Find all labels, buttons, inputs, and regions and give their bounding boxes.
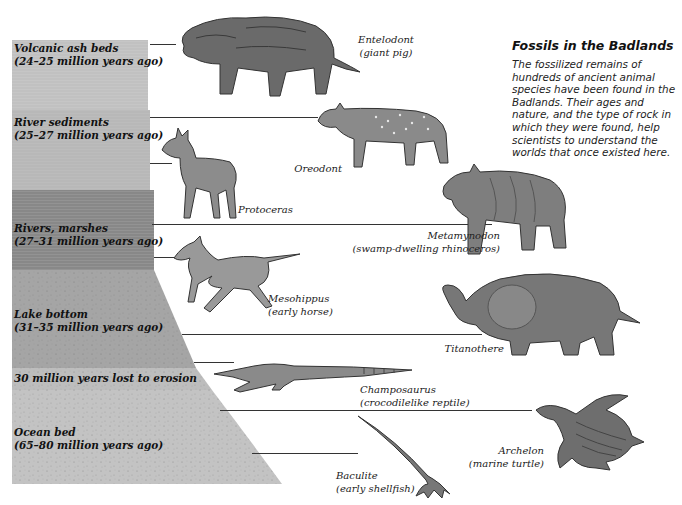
stratum-label-erosion: 30 million years lost to erosion (14, 372, 197, 385)
animal-desc: (crocodilelike reptile) (360, 397, 480, 410)
label-oreodont: Oreodont (290, 163, 342, 176)
leader-line-archelon (220, 410, 532, 411)
leader-line-baculite (252, 453, 358, 454)
label-protoceras: Protoceras (238, 204, 308, 217)
label-metamynodon: Metamynodon (swamp-dwelling rhinoceros) (340, 230, 500, 255)
leader-line-oreodont (150, 117, 318, 118)
stratum-label-volcanic-ash: Volcanic ash beds (24–25 million years a… (14, 42, 163, 68)
protoceras-illustration (160, 128, 240, 223)
info-line: which they were found, help (512, 121, 682, 134)
stratum-name: Ocean bed (14, 426, 163, 439)
info-line: worlds that once existed here. (512, 146, 682, 159)
animal-name: Titanothere (440, 343, 504, 356)
stratum-name: River sediments (14, 116, 163, 129)
label-entelodont: Entelodont (giant pig) (346, 34, 426, 59)
stratum-name: 30 million years lost to erosion (14, 372, 197, 385)
leader-line-titanothere (182, 334, 482, 335)
info-line: hundreds of ancient animal (512, 71, 682, 84)
info-line: scientists to understand the (512, 134, 682, 147)
animal-desc: (early shellfish) (336, 483, 426, 496)
animal-name: Baculite (336, 470, 426, 483)
animal-name: Oreodont (290, 163, 342, 176)
stratum-label-lake-bottom: Lake bottom (31–35 million years ago) (14, 308, 163, 334)
animal-name: Champosaurus (360, 384, 480, 397)
animal-name: Archelon (464, 445, 544, 458)
animal-name: Entelodont (346, 34, 426, 47)
stratum-name: Lake bottom (14, 308, 163, 321)
info-line: Badlands. Their ages and (512, 96, 682, 109)
info-body: The fossilized remains of hundreds of an… (512, 58, 682, 159)
archelon-illustration (536, 392, 646, 472)
label-mesohippus: Mesohippus (early horse) (268, 293, 348, 318)
animal-desc: (early horse) (268, 306, 348, 319)
stratum-label-ocean-bed: Ocean bed (65–80 million years ago) (14, 426, 163, 452)
leader-line-mesohippus (154, 257, 174, 258)
leader-line-entelodont (150, 44, 176, 45)
label-archelon: Archelon (marine turtle) (464, 445, 544, 470)
animal-name: Metamynodon (340, 230, 500, 243)
stratum-label-rivers-marshes: Rivers, marshes (27–31 million years ago… (14, 222, 163, 248)
info-line: The fossilized remains of (512, 58, 682, 71)
stratum-age: (65–80 million years ago) (14, 439, 163, 452)
stratum-age: (27–31 million years ago) (14, 235, 163, 248)
stratum-age: (24–25 million years ago) (14, 55, 163, 68)
info-line: nature, and the type of rock in (512, 108, 682, 121)
stratum-name: Rivers, marshes (14, 222, 163, 235)
stratum-age: (25–27 million years ago) (14, 129, 163, 142)
animal-desc: (swamp-dwelling rhinoceros) (340, 243, 500, 256)
stratum-name: Volcanic ash beds (14, 42, 163, 55)
stratum-age: (31–35 million years ago) (14, 321, 163, 334)
info-line: species have been found in the (512, 83, 682, 96)
animal-desc: (marine turtle) (464, 458, 544, 471)
label-baculite: Baculite (early shellfish) (336, 470, 426, 495)
entelodont-illustration (176, 8, 356, 103)
info-title: Fossils in the Badlands (512, 38, 674, 53)
stratum-label-river-sediments: River sediments (25–27 million years ago… (14, 116, 163, 142)
animal-name: Protoceras (238, 204, 308, 217)
animal-name: Mesohippus (268, 293, 348, 306)
label-titanothere: Titanothere (440, 343, 504, 356)
label-champosaurus: Champosaurus (crocodilelike reptile) (360, 384, 480, 409)
animal-desc: (giant pig) (346, 47, 426, 60)
